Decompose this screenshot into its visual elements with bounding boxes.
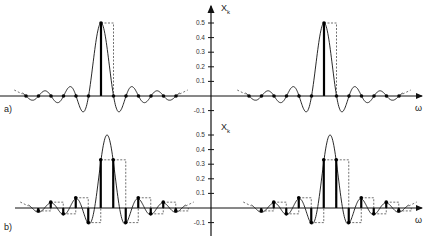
sample-point (334, 158, 338, 162)
y-tick-label: 0.2 (181, 175, 205, 182)
sample-point (297, 196, 301, 200)
panel-b-label: b) (4, 222, 12, 232)
sample-point (86, 221, 90, 225)
panel-a-label: a) (4, 104, 12, 114)
sample-point (272, 200, 276, 204)
y-tick-label: 0.1 (181, 77, 205, 84)
sample-point (49, 200, 53, 204)
x-axis-label-a: ω (415, 103, 422, 113)
sample-point (99, 21, 103, 25)
panel-b (20, 135, 417, 224)
sample-point (309, 221, 313, 225)
sample-point (136, 196, 140, 200)
sample-point (359, 196, 363, 200)
sample-point (284, 212, 288, 216)
sample-point (322, 158, 326, 162)
sample-point (36, 209, 40, 213)
y-tick-label: 0.5 (181, 19, 205, 26)
sample-point (61, 212, 65, 216)
spectrum-curve (251, 135, 408, 224)
y-tick-label: -0.1 (181, 107, 205, 114)
sample-point (397, 209, 401, 213)
y-tick-label: 0.3 (181, 160, 205, 167)
sample-point (99, 158, 103, 162)
y-tick-label: 0.1 (181, 189, 205, 196)
sample-point (322, 21, 326, 25)
sample-point (111, 158, 115, 162)
y-tick-label: -0.1 (181, 219, 205, 226)
y-tick-label: 0.4 (181, 34, 205, 41)
x-axis-label-b: ω (415, 215, 422, 225)
y-tick-label: 0.3 (181, 48, 205, 55)
sample-point (124, 221, 128, 225)
sample-point (372, 212, 376, 216)
sample-point (174, 209, 178, 213)
sample-point (259, 209, 263, 213)
sample-point (74, 196, 78, 200)
y-tick-label: 0.4 (181, 146, 205, 153)
sample-point (149, 212, 153, 216)
sample-point (161, 200, 165, 204)
y-tick-label: 0.2 (181, 63, 205, 70)
sample-point (384, 200, 388, 204)
sample-point (347, 221, 351, 225)
spectrum-figure (0, 0, 432, 242)
panel-a (14, 21, 411, 112)
y-tick-label: 0.5 (181, 131, 205, 138)
spectrum-curve (28, 135, 186, 224)
y-axis-label-b: Xk (221, 122, 230, 134)
y-axis-label-a: Xk (221, 3, 230, 15)
